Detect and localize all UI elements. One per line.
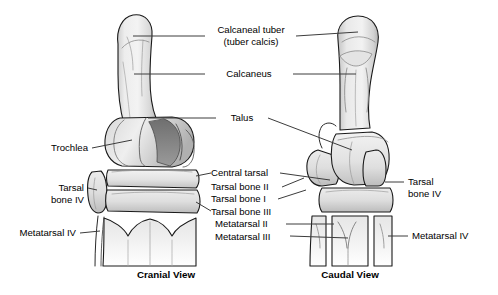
label-calcaneal-tuber-line1: Calcaneal tuber	[217, 24, 284, 36]
label-tarsal-bone-iv-left-line2: bone IV	[51, 194, 84, 206]
label-tarsal-bone-iv-right-line2: bone IV	[408, 188, 441, 200]
label-metatarsal-ii: Metatarsal II	[215, 218, 268, 230]
caption-caudal-view: Caudal View	[321, 269, 379, 280]
label-tarsal-bone-i: Tarsal bone I	[211, 193, 266, 205]
label-calcaneal-tuber: Calcaneal tuber (tuber calcis)	[217, 24, 284, 47]
label-tarsal-bone-ii: Tarsal bone II	[211, 181, 269, 193]
label-metatarsal-iii: Metatarsal III	[215, 231, 270, 243]
label-tarsal-bone-iv-right: Tarsal bone IV	[408, 176, 441, 199]
label-tarsal-bone-iv-left-line1: Tarsal	[51, 182, 84, 194]
label-metatarsal-iv-left: Metatarsal IV	[19, 227, 76, 239]
label-calcaneus: Calcaneus	[226, 68, 271, 80]
label-calcaneal-tuber-line2: (tuber calcis)	[217, 36, 284, 48]
label-central-tarsal: Central tarsal	[211, 167, 268, 179]
anatomy-figure: Calcaneal tuber (tuber calcis) Calcaneus…	[0, 0, 498, 295]
label-tarsal-bone-iv-left: Tarsal bone IV	[51, 182, 84, 205]
label-tarsal-bone-iv-right-line1: Tarsal	[408, 176, 441, 188]
label-metatarsal-iv-right: Metatarsal IV	[412, 230, 469, 242]
label-trochlea: Trochlea	[51, 142, 88, 154]
label-talus: Talus	[231, 112, 253, 124]
caption-cranial-view: Cranial View	[137, 269, 195, 280]
label-tarsal-bone-iii: Tarsal bone III	[211, 206, 271, 218]
